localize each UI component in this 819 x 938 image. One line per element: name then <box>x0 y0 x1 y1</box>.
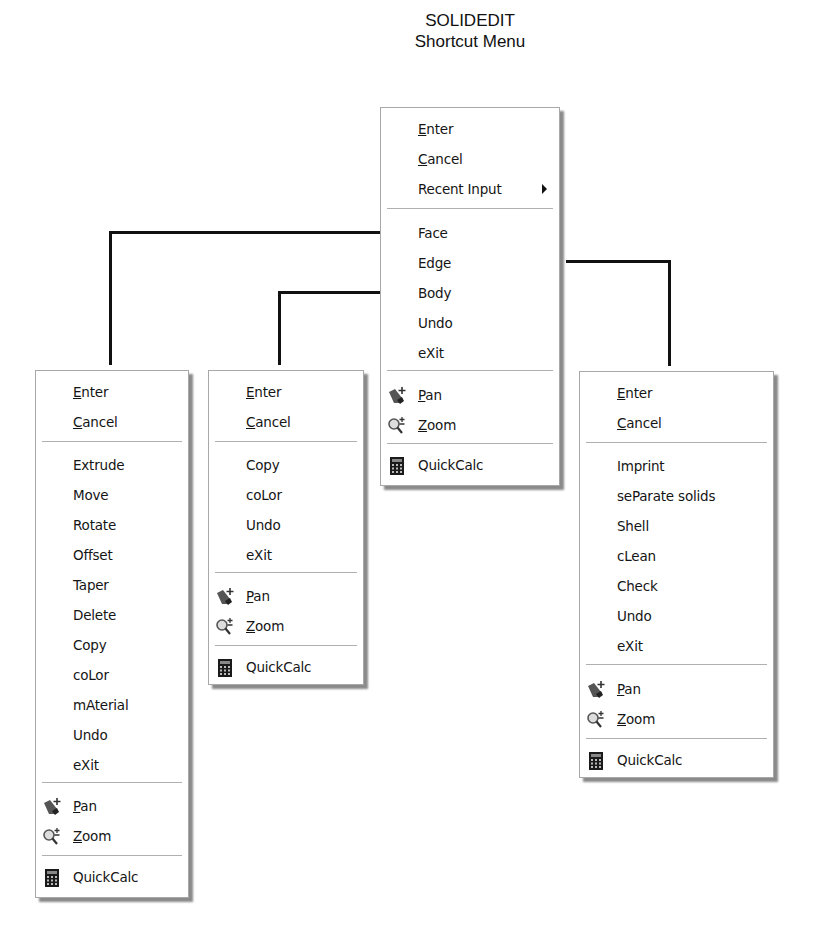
menu-item-enter[interactable]: Enter <box>381 114 559 144</box>
menu-item-undo[interactable]: Undo <box>36 720 188 750</box>
calculator-icon <box>387 456 407 476</box>
menu-separator <box>215 572 357 573</box>
menu-item-exit[interactable]: eXit <box>381 338 559 368</box>
menu-item-cancel[interactable]: Cancel <box>381 144 559 174</box>
menu-item-rotate[interactable]: Rotate <box>36 510 188 540</box>
menu-item-copy[interactable]: Copy <box>209 450 363 480</box>
body-submenu: Enter Cancel Imprint seParate solids She… <box>579 371 774 778</box>
calculator-icon <box>586 751 606 771</box>
menu-item-enter[interactable]: Enter <box>209 377 363 407</box>
menu-item-exit[interactable]: eXit <box>209 540 363 570</box>
connector-edge-vertical <box>668 260 671 366</box>
menu-item-quickcalc[interactable]: QuickCalc <box>36 862 188 892</box>
menu-item-cancel[interactable]: Cancel <box>209 407 363 437</box>
pan-hand-icon <box>42 797 62 817</box>
zoom-magnifier-icon <box>387 416 407 436</box>
connector-body-horizontal <box>278 291 380 294</box>
menu-item-delete[interactable]: Delete <box>36 600 188 630</box>
menu-separator <box>215 441 357 442</box>
menu-item-quickcalc[interactable]: QuickCalc <box>209 652 363 682</box>
menu-item-exit[interactable]: eXit <box>580 631 773 661</box>
menu-item-zoom[interactable]: Zoom <box>36 821 188 851</box>
face-submenu: Enter Cancel Extrude Move Rotate Offset … <box>35 370 189 898</box>
menu-item-pan[interactable]: Pan <box>209 581 363 611</box>
connector-edge-horizontal <box>566 260 671 263</box>
calculator-icon <box>215 658 235 678</box>
menu-separator <box>586 664 767 665</box>
menu-item-separate-solids[interactable]: seParate solids <box>580 481 773 511</box>
menu-item-clean[interactable]: cLean <box>580 541 773 571</box>
menu-item-color[interactable]: coLor <box>209 480 363 510</box>
menu-separator <box>42 855 182 856</box>
menu-item-zoom[interactable]: Zoom <box>381 410 559 440</box>
solidedit-shortcut-menu: Enter Cancel Recent Input Face Edge Body… <box>380 107 560 486</box>
connector-face-vertical <box>109 231 112 365</box>
pan-hand-icon <box>387 386 407 406</box>
connector-body-vertical <box>278 291 281 365</box>
menu-item-enter[interactable]: Enter <box>580 378 773 408</box>
menu-separator <box>42 441 182 442</box>
menu-item-quickcalc[interactable]: QuickCalc <box>381 450 559 480</box>
menu-separator <box>42 782 182 783</box>
menu-item-enter[interactable]: Enter <box>36 377 188 407</box>
menu-item-undo[interactable]: Undo <box>580 601 773 631</box>
menu-separator <box>586 738 767 739</box>
menu-item-cancel[interactable]: Cancel <box>580 408 773 438</box>
connector-face-horizontal <box>109 231 380 234</box>
menu-separator <box>387 370 553 371</box>
pan-hand-icon <box>215 587 235 607</box>
submenu-arrow-icon <box>542 184 547 194</box>
menu-separator <box>387 208 553 209</box>
menu-item-move[interactable]: Move <box>36 480 188 510</box>
menu-item-pan[interactable]: Pan <box>381 380 559 410</box>
menu-item-offset[interactable]: Offset <box>36 540 188 570</box>
title-line-2: Shortcut Menu <box>400 31 540 52</box>
diagram-title: SOLIDEDIT Shortcut Menu <box>400 10 540 52</box>
zoom-magnifier-icon <box>586 710 606 730</box>
zoom-magnifier-icon <box>42 827 62 847</box>
menu-item-material[interactable]: mAterial <box>36 690 188 720</box>
menu-item-pan[interactable]: Pan <box>580 674 773 704</box>
menu-item-color[interactable]: coLor <box>36 660 188 690</box>
menu-item-zoom[interactable]: Zoom <box>580 704 773 734</box>
menu-item-face[interactable]: Face <box>381 218 559 248</box>
menu-item-copy[interactable]: Copy <box>36 630 188 660</box>
menu-item-imprint[interactable]: Imprint <box>580 451 773 481</box>
menu-item-recent-input[interactable]: Recent Input <box>381 174 559 204</box>
title-line-1: SOLIDEDIT <box>400 10 540 31</box>
menu-separator <box>387 443 553 444</box>
edge-submenu: Enter Cancel Copy coLor Undo eXit Pan Zo… <box>208 370 364 685</box>
menu-separator <box>586 442 767 443</box>
menu-item-check[interactable]: Check <box>580 571 773 601</box>
menu-item-zoom[interactable]: Zoom <box>209 611 363 641</box>
menu-item-edge[interactable]: Edge <box>381 248 559 278</box>
menu-item-pan[interactable]: Pan <box>36 791 188 821</box>
menu-item-undo[interactable]: Undo <box>209 510 363 540</box>
calculator-icon <box>42 868 62 888</box>
zoom-magnifier-icon <box>215 617 235 637</box>
menu-item-taper[interactable]: Taper <box>36 570 188 600</box>
menu-item-cancel[interactable]: Cancel <box>36 407 188 437</box>
menu-separator <box>215 645 357 646</box>
pan-hand-icon <box>586 680 606 700</box>
menu-item-body[interactable]: Body <box>381 278 559 308</box>
menu-item-undo[interactable]: Undo <box>381 308 559 338</box>
menu-item-quickcalc[interactable]: QuickCalc <box>580 745 773 775</box>
menu-item-shell[interactable]: Shell <box>580 511 773 541</box>
menu-item-exit[interactable]: eXit <box>36 750 188 780</box>
menu-item-extrude[interactable]: Extrude <box>36 450 188 480</box>
